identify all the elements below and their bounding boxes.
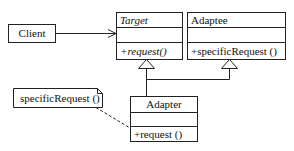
generalization-triangle-icon — [139, 60, 155, 69]
class-adapter-operation: +request () — [134, 128, 182, 141]
class-adaptee-operation: +specificRequest () — [191, 45, 277, 58]
class-adapter-name: Adapter — [146, 98, 182, 110]
class-target-name: Target — [120, 14, 149, 26]
class-client-name: Client — [19, 27, 46, 39]
class-adaptee-name: Adaptee — [191, 14, 228, 26]
generalization-triangle-icon — [222, 60, 238, 69]
association-arrow — [56, 30, 117, 38]
uml-diagram-canvas: Client Target +request() Adaptee +specif… — [0, 0, 294, 151]
class-target-operation: +request() — [120, 45, 167, 58]
generalization-lines — [147, 69, 230, 97]
note-anchor-line — [96, 108, 130, 129]
note-text: specificRequest () — [20, 92, 100, 105]
